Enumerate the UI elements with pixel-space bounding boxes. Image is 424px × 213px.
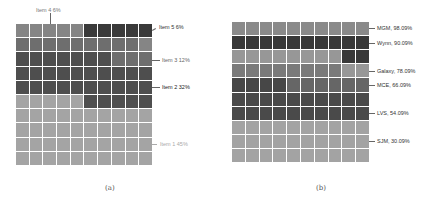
waffle-cell [112,123,125,136]
leader-line-galaxy [369,71,375,72]
waffle-grid-a [16,24,152,165]
waffle-cell [30,109,43,122]
waffle-cell [98,109,111,122]
waffle-cell [329,149,342,162]
waffle-cell [139,24,152,37]
waffle-cell [356,22,369,35]
waffle-cell [30,81,43,94]
waffle-chart-a: Item 4 6% Item 5 6% Item 3 12% Item 2 32… [0,0,212,213]
label-item3: Item 3 12% [162,57,190,63]
leader-line-wynn [369,43,375,44]
waffle-cell [232,36,245,49]
label-galaxy: Galaxy, 78.09% [377,68,415,74]
waffle-cell [301,50,314,63]
waffle-cell [84,67,97,80]
waffle-cell [16,52,29,65]
waffle-cell [84,24,97,37]
waffle-cell [57,138,70,151]
waffle-cell [71,138,84,151]
waffle-cell [126,123,139,136]
waffle-cell [139,67,152,80]
waffle-cell [112,152,125,165]
waffle-cell [126,95,139,108]
waffle-cell [30,95,43,108]
waffle-cell [112,52,125,65]
waffle-cell [43,81,56,94]
waffle-cell [342,36,355,49]
waffle-cell [16,24,29,37]
waffle-cell [342,78,355,91]
waffle-cell [315,135,328,148]
waffle-cell [84,138,97,151]
waffle-cell [301,149,314,162]
waffle-cell [139,95,152,108]
waffle-cell [57,109,70,122]
label-mce: MCE, 66.09% [377,82,411,88]
leader-line-lvs [369,113,375,114]
waffle-cell [260,50,273,63]
waffle-cell [246,78,259,91]
waffle-cell [71,152,84,165]
waffle-cell [57,38,70,51]
waffle-cell [139,38,152,51]
waffle-cell [112,24,125,37]
leader-line-item2 [152,87,160,88]
waffle-cell [301,36,314,49]
waffle-cell [356,36,369,49]
waffle-cell [273,121,286,134]
waffle-cell [98,95,111,108]
waffle-cell [246,36,259,49]
waffle-cell [71,38,84,51]
waffle-cell [16,81,29,94]
waffle-cell [342,121,355,134]
waffle-cell [329,64,342,77]
waffle-cell [315,93,328,106]
waffle-cell [273,50,286,63]
waffle-cell [329,78,342,91]
waffle-cell [43,24,56,37]
waffle-cell [30,24,43,37]
label-lvs: LVS, 54.09% [377,110,409,116]
waffle-cell [246,50,259,63]
waffle-cell [30,123,43,136]
waffle-cell [84,123,97,136]
waffle-cell [112,95,125,108]
label-item1: Item 1 45% [160,141,188,147]
leader-line-sjm [369,141,375,142]
label-item5: Item 5 6% [159,24,184,30]
waffle-cell [287,36,300,49]
caption-b: (b) [316,184,326,192]
waffle-cell [315,149,328,162]
waffle-cell [16,38,29,51]
caption-a: (a) [105,184,115,192]
waffle-cell [329,50,342,63]
waffle-cell [232,93,245,106]
waffle-cell [342,93,355,106]
waffle-cell [139,52,152,65]
waffle-cell [43,38,56,51]
waffle-cell [273,36,286,49]
waffle-cell [98,138,111,151]
waffle-cell [356,64,369,77]
waffle-cell [246,93,259,106]
waffle-cell [71,109,84,122]
waffle-cell [315,22,328,35]
waffle-cell [232,78,245,91]
waffle-cell [260,93,273,106]
waffle-cell [356,121,369,134]
waffle-cell [246,135,259,148]
waffle-cell [356,107,369,120]
waffle-cell [126,38,139,51]
label-mgm: MGM, 98.09% [377,25,412,31]
waffle-cell [273,78,286,91]
waffle-cell [273,135,286,148]
waffle-cell [287,107,300,120]
waffle-cell [260,36,273,49]
waffle-cell [71,52,84,65]
waffle-cell [43,123,56,136]
waffle-cell [43,67,56,80]
waffle-cell [342,64,355,77]
leader-line-mce [369,85,375,86]
waffle-cell [315,50,328,63]
waffle-cell [16,95,29,108]
